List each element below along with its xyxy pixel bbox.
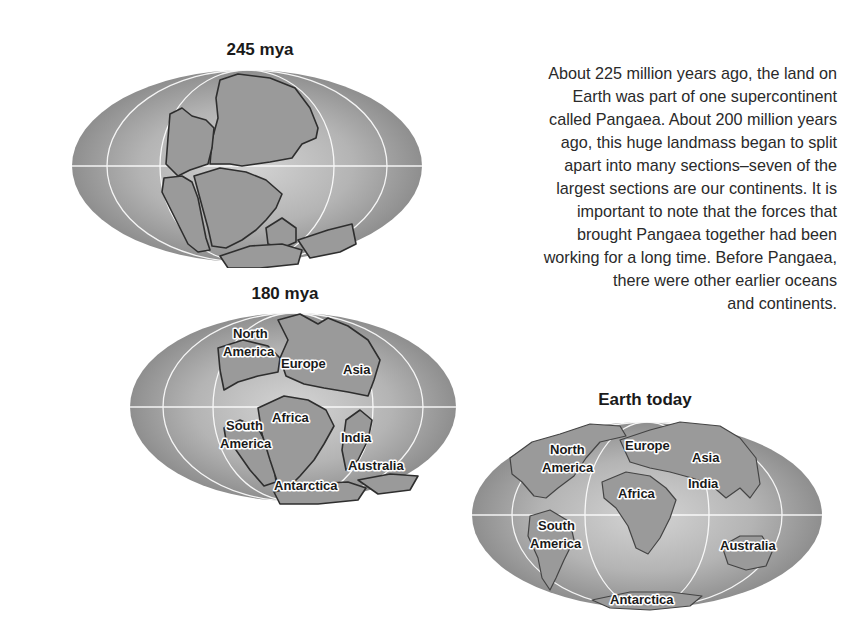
label-asia: Asia (692, 450, 720, 465)
label-south-america-1: South (226, 418, 263, 433)
label-australia: Australia (720, 538, 776, 553)
label-south-america-2: America (530, 536, 582, 551)
label-south-america-2: America (220, 436, 272, 451)
label-india: India (341, 430, 372, 445)
description-line: there were other earlier oceans (425, 269, 837, 292)
label-north-america-2: America (542, 460, 594, 475)
description-line: ago, this huge landmass began to split (425, 131, 837, 154)
description-line: working for a long time. Before Pangaea, (425, 246, 837, 269)
description-line: important to note that the forces that (425, 200, 837, 223)
description-line: About 225 million years ago, the land on (425, 62, 837, 85)
label-south-america-1: South (538, 518, 575, 533)
description-line: largest sections are our continents. It … (425, 177, 837, 200)
label-north-america-1: North (233, 326, 268, 341)
label-antarctica: Antarctica (274, 478, 338, 493)
label-india: India (688, 476, 719, 491)
label-asia: Asia (343, 362, 371, 377)
label-north-america-1: North (550, 442, 585, 457)
label-europe: Europe (281, 356, 326, 371)
description-line: apart into many sections–seven of the (425, 154, 837, 177)
label-australia: Australia (348, 458, 404, 473)
description-line: brought Pangaea together had been (425, 223, 837, 246)
label-north-america-2: America (223, 344, 275, 359)
map-title-180mya: 180 mya (230, 284, 340, 304)
pangaea-description: About 225 million years ago, the land on… (425, 62, 837, 315)
map-245mya (70, 68, 425, 268)
description-line: called Pangaea. About 200 million years (425, 108, 837, 131)
label-europe: Europe (625, 438, 670, 453)
description-line: and continents. (425, 292, 837, 315)
map-title-earth-today: Earth today (570, 390, 720, 410)
label-africa: Africa (272, 410, 310, 425)
map-180mya: North America Europe Asia Africa South A… (128, 310, 463, 505)
label-antarctica: Antarctica (610, 592, 674, 607)
description-line: Earth was part of one supercontinent (425, 85, 837, 108)
label-africa: Africa (618, 486, 656, 501)
map-title-245mya: 245 mya (190, 40, 330, 60)
map-earth-today: North America Europe Asia Africa India S… (470, 418, 825, 613)
